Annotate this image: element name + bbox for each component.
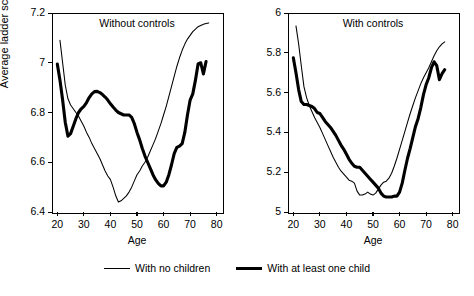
figure-root: Average ladder score Without controls6.4…: [0, 0, 474, 296]
legend-label-at-least-one-child: With at least one child: [267, 262, 370, 274]
series-line-at-least-one-child: [293, 58, 444, 197]
legend-label-no-children: With no children: [135, 262, 210, 274]
figure-legend: With no children With at least one child: [0, 262, 474, 274]
legend-swatch-thin-line: [104, 268, 130, 269]
legend-swatch-thick-line: [236, 267, 262, 270]
legend-item-no-children: With no children: [104, 262, 210, 274]
series-line-no-children: [296, 26, 445, 195]
series-layer: [0, 0, 474, 296]
legend-item-at-least-one-child: With at least one child: [236, 262, 370, 274]
